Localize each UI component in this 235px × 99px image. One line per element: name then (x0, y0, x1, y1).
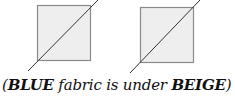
caption-beige-label: BEIGE (171, 76, 225, 94)
figure-caption: (BLUE fabric is under BEIGE) (2, 76, 234, 94)
left-fabric-square (38, 6, 91, 61)
caption-close-paren: ) (226, 76, 232, 94)
caption-middle-text: fabric is under (54, 76, 172, 94)
right-square-figure (130, 0, 200, 73)
fabric-overlap-diagram (0, 0, 235, 76)
left-square-figure (28, 0, 98, 71)
caption-blue-label: BLUE (8, 76, 54, 94)
